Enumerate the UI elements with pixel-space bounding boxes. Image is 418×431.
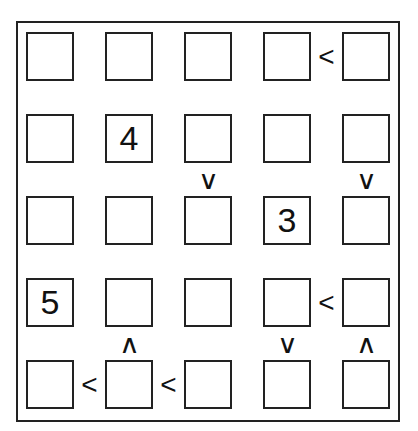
greater-than-down-icon: ∨ (274, 330, 300, 358)
cell-r5-c4[interactable] (263, 360, 311, 409)
cell-r3-c4[interactable]: 3 (263, 196, 311, 245)
cell-r4-c5[interactable] (342, 278, 390, 327)
cell-r3-c3[interactable] (184, 196, 232, 245)
cell-r4-c2[interactable] (105, 278, 153, 327)
cell-r1-c1[interactable] (26, 32, 74, 81)
less-than-icon: < (78, 371, 102, 399)
cell-r4-c3[interactable] (184, 278, 232, 327)
less-than-up-icon: ∧ (353, 330, 379, 358)
cell-r4-c1[interactable]: 5 (26, 278, 74, 327)
greater-than-down-icon: ∨ (195, 166, 221, 194)
cell-r1-c5[interactable] (342, 32, 390, 81)
cell-r2-c3[interactable] (184, 114, 232, 163)
greater-than-down-icon: ∨ (353, 166, 379, 194)
less-than-icon: < (157, 371, 181, 399)
cell-r1-c2[interactable] (105, 32, 153, 81)
less-than-up-icon: ∧ (116, 330, 142, 358)
cell-r5-c1[interactable] (26, 360, 74, 409)
cell-r5-c5[interactable] (342, 360, 390, 409)
cell-r3-c5[interactable] (342, 196, 390, 245)
cell-r2-c1[interactable] (26, 114, 74, 163)
cell-r4-c4[interactable] (263, 278, 311, 327)
cell-r2-c5[interactable] (342, 114, 390, 163)
cell-r1-c3[interactable] (184, 32, 232, 81)
cell-r1-c4[interactable] (263, 32, 311, 81)
cell-r5-c3[interactable] (184, 360, 232, 409)
cell-r5-c2[interactable] (105, 360, 153, 409)
less-than-icon: < (315, 43, 339, 71)
less-than-icon: < (315, 289, 339, 317)
cell-r3-c2[interactable] (105, 196, 153, 245)
cell-r3-c1[interactable] (26, 196, 74, 245)
cell-r2-c2[interactable]: 4 (105, 114, 153, 163)
cell-r2-c4[interactable] (263, 114, 311, 163)
